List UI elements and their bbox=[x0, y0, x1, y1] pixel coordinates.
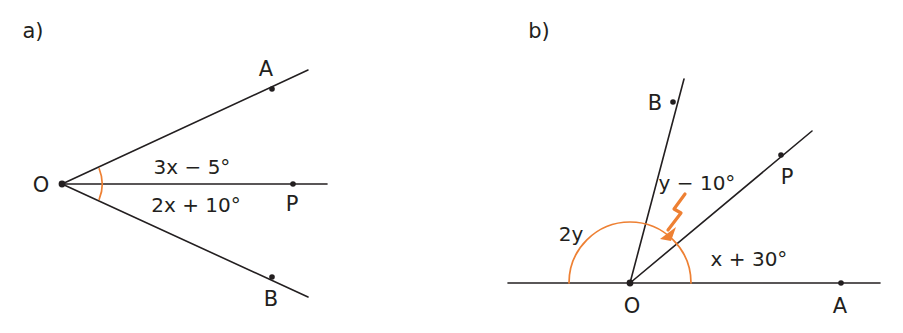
panel-b-label-a: A bbox=[833, 294, 848, 318]
panel-b-label-p: P bbox=[781, 165, 794, 189]
panel-b-point-dot-p bbox=[778, 152, 784, 158]
panel-b-point-dot-a bbox=[838, 280, 844, 286]
panel-a-vertex-dot-o bbox=[59, 181, 66, 188]
panel-a-point-dot-p bbox=[290, 181, 296, 187]
panel-a-label-a: A bbox=[259, 57, 274, 81]
panel-b-label-b: B bbox=[648, 91, 662, 115]
panel-b-vertex-dot-o bbox=[627, 280, 634, 287]
panel-b-letter: b) bbox=[528, 19, 550, 43]
panel-a-upper-angle-expression: 3x − 5° bbox=[154, 155, 231, 179]
panel-b-label-o: O bbox=[624, 294, 641, 318]
panel-a-label-p: P bbox=[286, 192, 299, 216]
panel-a-point-dot-a bbox=[269, 86, 275, 92]
panel-b: b) O A B P 2y y − 10° x + bbox=[508, 19, 880, 318]
panel-b-pointer-arrow bbox=[668, 194, 685, 230]
panel-b-lower-angle-expression: x + 30° bbox=[711, 247, 788, 271]
panel-a: a) O A B P 3x − 5° 2x + 10° bbox=[22, 19, 327, 311]
geometry-figure-root: a) O A B P 3x − 5° 2x + 10° b) bbox=[0, 0, 903, 333]
panel-b-point-dot-b bbox=[670, 99, 676, 105]
panel-a-lower-angle-expression: 2x + 10° bbox=[151, 193, 240, 217]
panel-a-label-b: B bbox=[264, 287, 278, 311]
panel-b-big-angle-expression: 2y bbox=[559, 222, 584, 246]
panel-a-letter: a) bbox=[22, 19, 43, 43]
geometry-figure-canvas: a) O A B P 3x − 5° 2x + 10° b) bbox=[0, 0, 903, 333]
panel-b-middle-angle-expression: y − 10° bbox=[659, 171, 736, 195]
panel-a-label-o: O bbox=[33, 173, 50, 197]
panel-a-point-dot-b bbox=[269, 274, 275, 280]
